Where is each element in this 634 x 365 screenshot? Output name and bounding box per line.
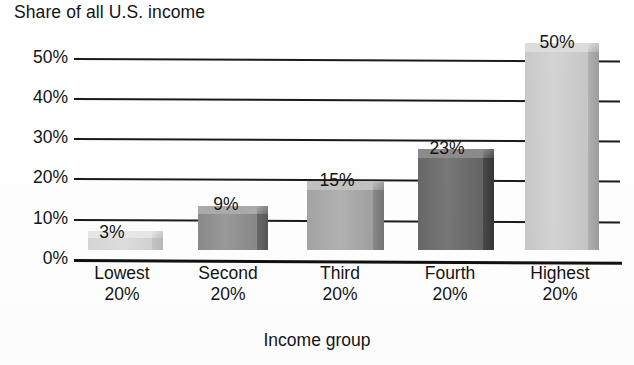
x-category-lowest-20: Lowest 20% bbox=[74, 263, 170, 305]
bar-top-cap bbox=[483, 149, 494, 158]
value-label-fourth-20: 23% bbox=[412, 138, 482, 159]
bar-highest-20 bbox=[525, 52, 588, 250]
x-category-fourth-20: Fourth 20% bbox=[402, 263, 498, 305]
bar-front-face bbox=[198, 214, 257, 250]
chart-title: Share of all U.S. income bbox=[14, 2, 205, 23]
bar-front-face bbox=[525, 52, 588, 250]
value-label-highest-20: 50% bbox=[522, 32, 592, 53]
x-category-line-2: 20% bbox=[512, 284, 608, 305]
bar-front-face bbox=[418, 158, 483, 250]
y-tick-label-50: 50% bbox=[6, 47, 68, 68]
bar-top-cap bbox=[152, 231, 163, 238]
y-tick-label-30: 30% bbox=[6, 127, 68, 148]
bar-top-cap bbox=[373, 181, 384, 190]
x-category-line-1: Second bbox=[180, 263, 276, 284]
x-category-line-1: Highest bbox=[512, 263, 608, 284]
x-category-third-20: Third 20% bbox=[292, 263, 388, 305]
bar-side-face bbox=[152, 238, 163, 250]
x-category-highest-20: Highest 20% bbox=[512, 263, 608, 305]
x-category-line-1: Lowest bbox=[74, 263, 170, 284]
bar-fourth-20 bbox=[418, 158, 483, 250]
x-category-line-1: Fourth bbox=[402, 263, 498, 284]
bar-front-face bbox=[307, 190, 373, 250]
bar-second-20 bbox=[198, 214, 257, 250]
y-tick-label-10: 10% bbox=[6, 208, 68, 229]
bar-side-face bbox=[588, 52, 599, 250]
x-category-line-2: 20% bbox=[74, 284, 170, 305]
y-tick-label-0: 0% bbox=[6, 248, 68, 269]
y-tick-label-40: 40% bbox=[6, 87, 68, 108]
y-tick-label-20: 20% bbox=[6, 167, 68, 188]
x-category-second-20: Second 20% bbox=[180, 263, 276, 305]
bar-chart: Share of all U.S. income 50% 40% 30% 20%… bbox=[0, 0, 634, 365]
value-label-third-20: 15% bbox=[302, 170, 372, 191]
x-category-line-2: 20% bbox=[292, 284, 388, 305]
value-label-second-20: 9% bbox=[196, 194, 256, 215]
bar-side-face bbox=[257, 214, 268, 250]
bar-third-20 bbox=[307, 190, 373, 250]
x-category-line-2: 20% bbox=[402, 284, 498, 305]
value-label-lowest-20: 3% bbox=[80, 222, 144, 243]
bar-top-cap bbox=[257, 206, 268, 214]
x-axis-title: Income group bbox=[0, 330, 634, 351]
x-category-line-1: Third bbox=[292, 263, 388, 284]
x-category-line-2: 20% bbox=[180, 284, 276, 305]
bar-side-face bbox=[483, 158, 494, 250]
bar-side-face bbox=[373, 190, 384, 250]
